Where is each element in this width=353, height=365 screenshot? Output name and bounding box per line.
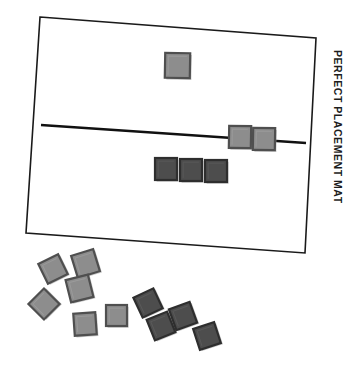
placed-tile-row-3 bbox=[205, 160, 229, 184]
tile-body bbox=[38, 254, 67, 283]
placed-tile-on-line-2 bbox=[253, 128, 277, 152]
tile-body bbox=[66, 275, 94, 303]
mat-label: PERFECT PLACEMENT MAT bbox=[332, 50, 344, 204]
placement-mat-illustration: PERFECT PLACEMENT MAT bbox=[0, 0, 353, 365]
placed-tile-on-line-1 bbox=[229, 126, 253, 150]
scene-vector-layer bbox=[0, 0, 353, 365]
tile-body bbox=[71, 249, 100, 278]
placed-tile-row-2 bbox=[180, 159, 204, 183]
tile-body bbox=[133, 288, 162, 317]
loose-tile-4 bbox=[28, 287, 62, 321]
placed-tile-top bbox=[165, 53, 192, 80]
loose-tile-5 bbox=[73, 312, 98, 337]
placed-tile-row-1 bbox=[155, 158, 179, 182]
loose-tiles-group bbox=[28, 249, 222, 352]
loose-tile-6 bbox=[106, 305, 129, 328]
loose-tile-10 bbox=[193, 322, 223, 352]
loose-tile-3 bbox=[66, 274, 96, 304]
